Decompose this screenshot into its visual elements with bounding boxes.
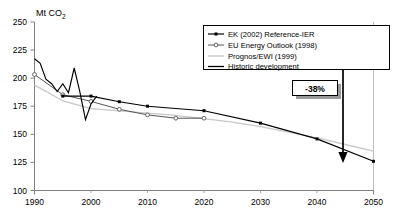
legend: EK (2002) Reference-IER EU Energy Outloo… xyxy=(204,26,390,72)
data-point xyxy=(174,116,178,120)
y-tick-label: 200 xyxy=(13,73,27,83)
data-point xyxy=(146,105,149,108)
x-tick-label: 1990 xyxy=(25,197,44,207)
data-point xyxy=(203,109,206,112)
data-point xyxy=(372,160,375,163)
x-tick-label: 2020 xyxy=(195,197,214,207)
data-point xyxy=(146,113,150,117)
x-tick-label: 2010 xyxy=(138,197,157,207)
y-tick-label: 150 xyxy=(13,129,27,139)
co2-emissions-line-chart: Mt CO2 100 125 150 175 200 225 250 1990 xyxy=(0,0,396,221)
data-point xyxy=(202,116,206,120)
data-point xyxy=(259,122,262,125)
reduction-callout-label: -38% xyxy=(305,84,325,94)
data-point xyxy=(117,107,121,111)
y-tick-label: 125 xyxy=(13,157,27,167)
y-tick-label: 100 xyxy=(13,186,27,196)
reduction-callout: -38% xyxy=(293,81,342,100)
legend-marker-filled-square-icon xyxy=(215,33,218,36)
y-tick-label: 225 xyxy=(13,45,27,55)
chart-svg: Mt CO2 100 125 150 175 200 225 250 1990 xyxy=(0,0,396,221)
x-tick-label: 2000 xyxy=(82,197,101,207)
legend-label: Historic development xyxy=(228,62,300,71)
y-axis-label: Mt CO2 xyxy=(36,8,66,20)
legend-label: EK (2002) Reference-IER xyxy=(228,30,315,39)
data-point xyxy=(33,73,37,77)
data-point xyxy=(90,95,93,98)
data-point xyxy=(118,100,121,103)
x-tick-label: 2030 xyxy=(251,197,270,207)
y-tick-label: 175 xyxy=(13,101,27,111)
legend-marker-open-circle-icon xyxy=(214,43,218,47)
x-tick-label: 2040 xyxy=(308,197,327,207)
legend-label: EU Energy Outlook (1998) xyxy=(228,41,318,50)
y-tick-label: 250 xyxy=(13,17,27,27)
legend-label: Prognos/EWI (1999) xyxy=(228,52,297,61)
x-tick-label: 2050 xyxy=(364,197,383,207)
data-point xyxy=(61,95,64,98)
data-point xyxy=(316,137,319,140)
